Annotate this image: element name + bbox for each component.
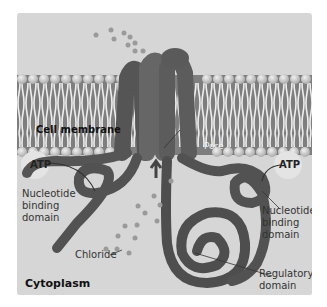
label-nbd-right: Nucleotide binding domain bbox=[262, 205, 312, 241]
label-atp-right: ATP bbox=[279, 159, 300, 171]
label-nbd-left: Nucleotide binding domain bbox=[22, 188, 76, 224]
label-chloride: Chloride bbox=[75, 249, 117, 261]
label-atp-left: ATP bbox=[30, 159, 51, 171]
label-cell-membrane: Cell membrane bbox=[36, 124, 121, 136]
cftr-illustration bbox=[17, 13, 312, 295]
label-cytoplasm: Cytoplasm bbox=[25, 278, 90, 290]
label-pore: Pore bbox=[204, 140, 224, 152]
diagram-frame: Cell membrane Pore ATP ATP Nucleotide bi… bbox=[17, 13, 312, 295]
label-regulatory-domain: Regulatory domain bbox=[259, 268, 312, 292]
